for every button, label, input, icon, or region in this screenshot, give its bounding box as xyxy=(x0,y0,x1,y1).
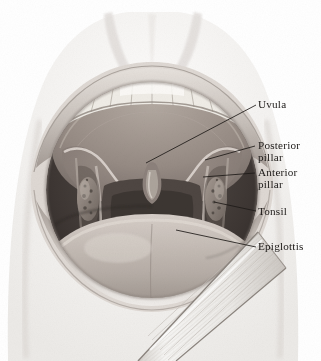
label-text: Anterior xyxy=(258,166,298,178)
label-text: Tonsil xyxy=(258,205,287,217)
illustration-canvas: UvulaPosteriorpillarAnteriorpillarTonsil… xyxy=(0,0,321,361)
label-anterior-pillar: Anteriorpillar xyxy=(258,166,320,191)
label-text: Uvula xyxy=(258,98,286,110)
label-text-line2: pillar xyxy=(258,178,283,190)
label-epiglottis: Epiglottis xyxy=(258,240,304,253)
label-text-line2: pillar xyxy=(258,151,283,163)
tonsil-right xyxy=(205,177,227,221)
label-text: Epiglottis xyxy=(258,240,304,252)
label-posterior-pillar: Posteriorpillar xyxy=(258,139,320,164)
label-tonsil: Tonsil xyxy=(258,205,287,218)
label-text: Posterior xyxy=(258,139,300,151)
label-uvula: Uvula xyxy=(258,98,286,111)
